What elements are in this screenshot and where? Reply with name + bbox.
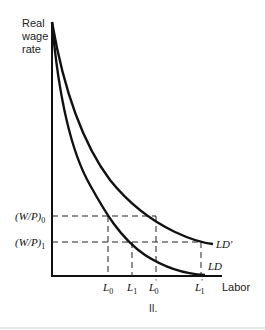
- figure-caption: II.: [149, 303, 157, 314]
- x-tick-l1-prime: L'1: [194, 278, 205, 296]
- x-tick-l0-prime: L'0: [148, 278, 159, 296]
- bottom-divider: [0, 327, 265, 329]
- svg-text:L0: L0: [102, 281, 113, 296]
- svg-text:L'0: L'0: [148, 278, 159, 296]
- y-axis-label: Real wage rate: [21, 17, 51, 55]
- svg-text:(W/P)0: (W/P)0: [15, 210, 45, 225]
- y-tick-wp0: (W/P)0: [15, 210, 45, 225]
- ld-prime-curve: [52, 22, 213, 244]
- guide-lines: [52, 216, 201, 276]
- svg-text:(W/P)1: (W/P)1: [15, 236, 45, 251]
- ld-curve: [52, 22, 205, 275]
- y-tick-wp1: (W/P)1: [15, 236, 45, 251]
- x-tick-l1: L1: [126, 281, 137, 296]
- x-tick-l0: L0: [102, 281, 113, 296]
- ld-prime-label: LD': [215, 238, 233, 250]
- ld-label: LD: [207, 260, 222, 272]
- svg-text:L'1: L'1: [194, 278, 205, 296]
- labor-demand-diagram: Real wage rate LD' LD (W/P)0 (W/P)1 L0 L…: [0, 0, 265, 330]
- svg-text:L1: L1: [126, 281, 137, 296]
- x-axis-label: Labor: [222, 281, 250, 293]
